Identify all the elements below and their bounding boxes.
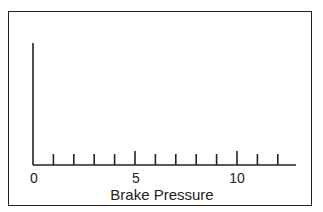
x-tick-label-0: 0 bbox=[30, 170, 38, 186]
x-tick-label-5: 5 bbox=[132, 170, 140, 186]
chart-axes bbox=[0, 0, 323, 212]
x-tick-label-10: 10 bbox=[229, 170, 245, 186]
x-axis-label: Brake Pressure bbox=[110, 186, 213, 203]
